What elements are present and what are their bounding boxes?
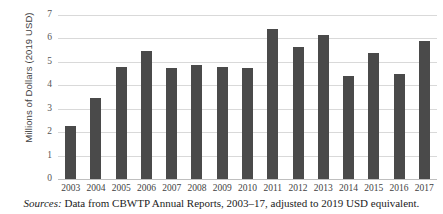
y-tick-6: 6	[32, 33, 52, 43]
y-axis-tick-labels: 76543210	[30, 15, 52, 179]
plot-area	[58, 15, 437, 179]
bar-2003	[65, 126, 76, 179]
bar-2013	[318, 35, 329, 179]
bar-2006	[141, 51, 152, 179]
gridline-0	[58, 179, 437, 180]
y-tick-1: 1	[32, 151, 52, 161]
y-tick-7: 7	[32, 10, 52, 20]
y-tick-4: 4	[32, 80, 52, 90]
bar-2008	[191, 65, 202, 179]
bar-2005	[116, 67, 127, 179]
bar-2011	[267, 29, 278, 179]
figure-caption: Sources: Data from CBWTP Annual Reports,…	[0, 196, 443, 210]
caption-source-text: Data from CBWTP Annual Reports, 2003–17,…	[62, 197, 420, 209]
y-tick-3: 3	[32, 104, 52, 114]
bar-2014	[343, 76, 354, 179]
bar-2004	[90, 98, 101, 179]
gridline-6	[58, 38, 437, 39]
bar-2007	[166, 68, 177, 179]
caption-source-label: Sources:	[24, 197, 62, 209]
figure-page: Millions of Dollars (2019 USD) 76543210 …	[0, 0, 443, 214]
gridline-5	[58, 62, 437, 63]
x-tick-2017: 2017	[409, 181, 439, 195]
bar-2015	[368, 53, 379, 179]
y-tick-0: 0	[32, 174, 52, 184]
y-tick-5: 5	[32, 57, 52, 67]
bar-2010	[242, 68, 253, 179]
bar-2017	[419, 41, 430, 179]
bar-chart: Millions of Dollars (2019 USD) 76543210 …	[0, 0, 443, 190]
bar-2009	[217, 67, 228, 179]
gridline-7	[58, 15, 437, 16]
y-tick-2: 2	[32, 127, 52, 137]
bar-2012	[293, 47, 304, 179]
bar-2016	[394, 74, 405, 179]
x-axis-tick-labels: 2003200420052006200720082009201020112012…	[58, 181, 437, 195]
